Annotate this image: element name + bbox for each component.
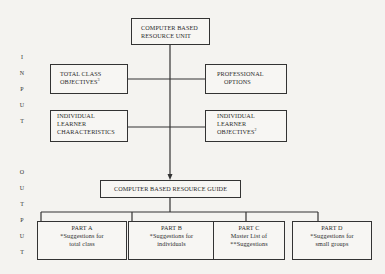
footnote-marker: 2	[254, 127, 256, 132]
resource-guide-box: COMPUTER BASED RESOURCE GUIDE	[100, 180, 241, 198]
part-line2: total class	[38, 240, 126, 248]
output-letter: P	[19, 217, 25, 223]
part-line1: *Suggestions for	[293, 232, 371, 240]
part-title: PART B	[129, 224, 214, 232]
part-line1: *Suggestions for	[38, 232, 126, 240]
part-title: PART A	[38, 224, 126, 232]
part-line1: *Suggestions for	[129, 232, 214, 240]
footnote-marker: 3	[97, 77, 99, 82]
learner-characteristics-line1: INDIVIDUAL	[57, 112, 115, 120]
input-letter: T	[19, 118, 25, 124]
resource-unit-line2: RESOURCE UNIT	[141, 32, 198, 40]
learner-objectives-box: INDIVIDUAL LEARNER OBJECTIVES2	[205, 110, 287, 142]
part-line2: individuals	[129, 240, 214, 248]
input-letter: N	[19, 70, 25, 76]
professional-options-line1: PROFESSIONAL	[217, 70, 264, 78]
total-class-objectives-line1: TOTAL CLASS	[60, 70, 101, 78]
part-b-box: PART B *Suggestions for individuals	[128, 221, 215, 260]
resource-guide-label: COMPUTER BASED RESOURCE GUIDE	[101, 185, 240, 193]
input-letter: U	[19, 102, 25, 108]
output-letter: T	[19, 249, 25, 255]
input-letter: P	[19, 86, 25, 92]
total-class-objectives-box: TOTAL CLASS OBJECTIVES3	[50, 64, 128, 94]
learner-characteristics-line2: LEARNER	[57, 120, 115, 128]
output-letter: O	[19, 169, 25, 175]
part-d-box: PART D *Suggestions for small groups	[292, 221, 372, 260]
output-letter: U	[19, 233, 25, 239]
resource-unit-line1: COMPUTER BASED	[141, 24, 198, 32]
professional-options-box: PROFESSIONAL OPTIONS	[205, 64, 287, 94]
total-class-objectives-line2: OBJECTIVES	[60, 78, 97, 85]
learner-characteristics-box: INDIVIDUAL LEARNER CHARACTERISTICS	[50, 110, 128, 142]
resource-unit-box: COMPUTER BASED RESOURCE UNIT	[131, 18, 210, 45]
part-title: PART C	[214, 224, 284, 232]
part-line1: Master List of	[214, 232, 284, 240]
output-letter: U	[19, 185, 25, 191]
part-c-box: PART C Master List of **Suggestions	[213, 221, 285, 260]
learner-characteristics-line3: CHARACTERISTICS	[57, 128, 115, 136]
learner-objectives-line1: INDIVIDUAL	[217, 112, 257, 120]
output-letter: T	[19, 201, 25, 207]
part-line2: small groups	[293, 240, 371, 248]
input-letter: I	[19, 54, 25, 60]
part-line2: **Suggestions	[214, 240, 284, 248]
part-a-box: PART A *Suggestions for total class	[37, 221, 127, 260]
learner-objectives-line2: LEARNER	[217, 120, 257, 128]
learner-objectives-line3: OBJECTIVES	[217, 128, 254, 135]
part-title: PART D	[293, 224, 371, 232]
professional-options-line2: OPTIONS	[217, 78, 264, 86]
